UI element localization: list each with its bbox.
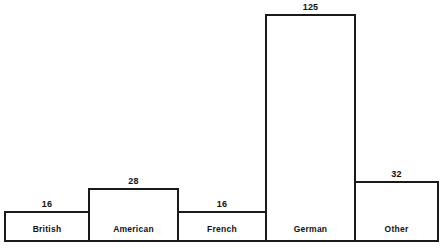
value-label-british: 16 [4, 199, 90, 209]
category-label-french: French [177, 224, 267, 234]
value-label-german: 125 [265, 2, 356, 12]
value-label-other: 32 [354, 169, 439, 179]
category-label-german: German [265, 224, 356, 234]
bar-chart: 16 British 28 American 16 French 125 Ger… [0, 0, 444, 250]
chart-baseline [4, 240, 439, 242]
value-label-french: 16 [177, 199, 267, 209]
bar-german [265, 14, 356, 242]
category-label-american: American [88, 224, 179, 234]
value-label-american: 28 [88, 176, 179, 186]
category-label-british: British [4, 224, 90, 234]
category-label-other: Other [354, 224, 439, 234]
